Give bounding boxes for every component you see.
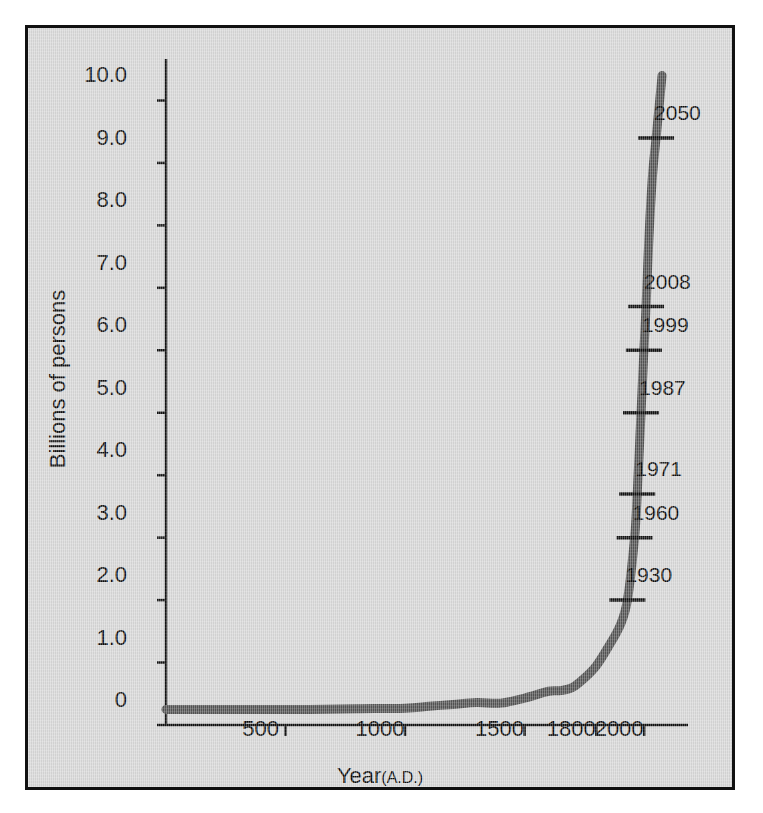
x-axis-title-sub: (A.D.) bbox=[381, 769, 423, 786]
y-tick-label: 5.0 bbox=[28, 375, 127, 401]
y-tick-label: 4.0 bbox=[28, 437, 127, 463]
figure-panel: Billions of persons Year(A.D.) 01.02.03.… bbox=[25, 25, 735, 790]
curve-annotation-label: 2050 bbox=[654, 101, 701, 125]
y-tick-label: 8.0 bbox=[28, 187, 127, 213]
x-tick-label: 500 bbox=[242, 716, 279, 742]
axes-lines bbox=[166, 59, 688, 725]
chart-plot-area bbox=[25, 25, 763, 813]
curve-annotation-label: 1999 bbox=[642, 313, 689, 337]
y-tick-label: 0 bbox=[28, 687, 127, 713]
y-tick-label: 3.0 bbox=[28, 500, 127, 526]
x-tick-label: 2000 bbox=[595, 716, 644, 742]
y-tick-label: 9.0 bbox=[28, 125, 127, 151]
curve-annotation-label: 1960 bbox=[633, 501, 680, 525]
curve-annotation-label: 2008 bbox=[644, 270, 691, 294]
y-tick-label: 7.0 bbox=[28, 250, 127, 276]
x-tick-label: 1000 bbox=[356, 716, 405, 742]
x-tick-label: 1800 bbox=[547, 716, 596, 742]
x-tick-label: 1500 bbox=[475, 716, 524, 742]
y-tick-label: 10.0 bbox=[28, 62, 127, 88]
x-axis-title-main: Year bbox=[337, 763, 381, 788]
y-tick-label: 1.0 bbox=[28, 625, 127, 651]
x-axis-title: Year(A.D.) bbox=[28, 763, 732, 789]
curve-annotation-label: 1987 bbox=[639, 376, 686, 400]
tick-marks bbox=[157, 100, 644, 736]
curve-annotation-label: 1971 bbox=[635, 457, 682, 481]
population-curve bbox=[166, 75, 662, 709]
curve-annotation-label: 1930 bbox=[625, 563, 672, 587]
y-tick-label: 2.0 bbox=[28, 562, 127, 588]
y-tick-label: 6.0 bbox=[28, 312, 127, 338]
